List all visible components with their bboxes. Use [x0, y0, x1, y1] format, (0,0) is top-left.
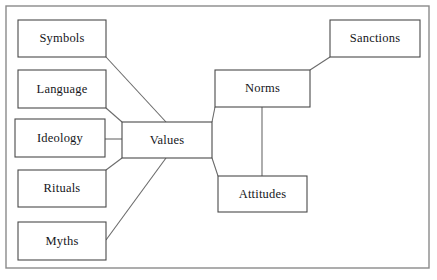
node-box-rituals[interactable] [18, 170, 106, 207]
node-box-myths[interactable] [18, 222, 106, 260]
diagram-svg [0, 0, 437, 280]
connector-language-to-values [106, 108, 122, 122]
node-box-values[interactable] [122, 122, 212, 158]
diagram-canvas: SymbolsLanguageIdeologyRitualsMythsValue… [0, 0, 437, 280]
node-box-language[interactable] [18, 70, 106, 108]
node-box-ideology[interactable] [15, 119, 105, 157]
connector-myths-to-values [106, 158, 166, 240]
connector-rituals-to-values [106, 158, 122, 170]
connector-symbols-to-values [106, 57, 166, 122]
node-box-symbols[interactable] [18, 20, 106, 57]
node-box-norms[interactable] [215, 70, 310, 107]
node-box-attitudes[interactable] [218, 176, 307, 212]
connector-values-to-norms [212, 107, 215, 122]
node-box-sanctions[interactable] [330, 20, 420, 57]
connector-norms-to-sanctions [310, 57, 330, 70]
connector-values-to-attitudes [212, 158, 218, 176]
